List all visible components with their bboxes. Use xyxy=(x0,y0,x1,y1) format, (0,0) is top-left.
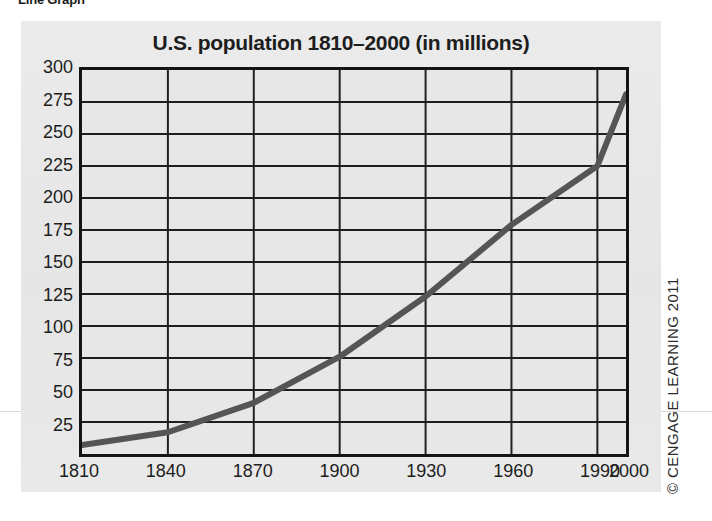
y-tick-label: 50 xyxy=(27,382,73,403)
chart-title: U.S. population 1810–2000 (in millions) xyxy=(21,31,661,55)
grid-and-series xyxy=(82,70,626,454)
y-tick-label: 150 xyxy=(27,252,73,273)
y-tick-label: 125 xyxy=(27,284,73,305)
y-tick-label: 75 xyxy=(27,349,73,370)
y-tick-label: 300 xyxy=(27,57,73,78)
y-tick-label: 200 xyxy=(27,187,73,208)
figure-panel: U.S. population 1810–2000 (in millions) … xyxy=(21,21,661,492)
x-axis-tick-labels: 18101840187019001930196019902000 xyxy=(79,461,629,491)
plot-area xyxy=(79,67,629,457)
y-tick-label: 275 xyxy=(27,89,73,110)
y-tick-label: 250 xyxy=(27,122,73,143)
section-label: Line Graph xyxy=(18,0,85,7)
x-tick-label: 1840 xyxy=(146,461,186,482)
copyright-credit-text: © CENGAGE LEARNING 2011 xyxy=(664,224,681,494)
x-tick-label: 1870 xyxy=(233,461,273,482)
y-tick-label: 25 xyxy=(27,414,73,435)
y-tick-label: 225 xyxy=(27,154,73,175)
x-tick-label: 1930 xyxy=(406,461,446,482)
x-tick-label: 1900 xyxy=(319,461,359,482)
x-tick-label: 1810 xyxy=(59,461,99,482)
y-axis-tick-labels: 300275250225200175150125100755025 xyxy=(21,67,73,457)
copyright-credit: © CENGAGE LEARNING 2011 xyxy=(664,0,681,232)
x-tick-label: 2000 xyxy=(609,461,649,482)
series-line xyxy=(82,94,626,445)
y-tick-label: 175 xyxy=(27,219,73,240)
y-tick-label: 100 xyxy=(27,317,73,338)
margin-rule-left xyxy=(0,411,22,412)
x-tick-label: 1960 xyxy=(493,461,533,482)
